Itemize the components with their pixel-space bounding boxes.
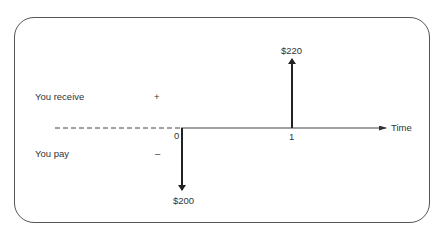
you-receive-label: You receive bbox=[35, 91, 84, 102]
minus-sign: – bbox=[155, 148, 160, 159]
tick-label-1: 1 bbox=[289, 131, 294, 142]
inflow-amount-label: $220 bbox=[281, 45, 302, 56]
cash-flow-diagram bbox=[0, 0, 438, 231]
axis-label-time: Time bbox=[391, 122, 412, 133]
you-pay-label: You pay bbox=[35, 148, 69, 159]
plus-sign: + bbox=[154, 91, 160, 102]
tick-label-0: 0 bbox=[174, 130, 179, 141]
outflow-amount-label: $200 bbox=[173, 195, 194, 206]
